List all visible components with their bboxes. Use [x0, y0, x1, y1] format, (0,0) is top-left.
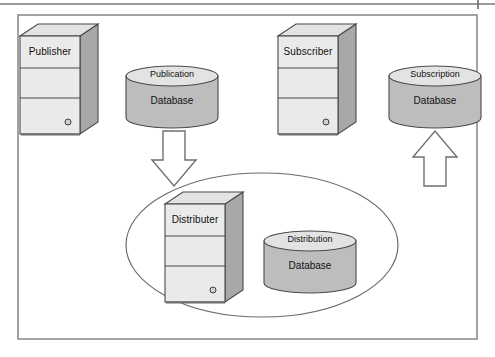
database-body-label-distribution: Database — [264, 260, 356, 271]
database-body-label-publication: Database — [126, 95, 218, 106]
server-label-distributer: Distributer — [165, 214, 225, 225]
database-top-label-subscription: Subscription — [389, 69, 481, 79]
server-subscriber — [278, 24, 356, 135]
server-label-subscriber: Subscriber — [278, 46, 338, 57]
page-top-rule — [0, 0, 495, 9]
database-top-label-publication: Publication — [126, 69, 218, 79]
server-distributer — [165, 192, 243, 303]
database-top-label-distribution: Distribution — [264, 234, 356, 244]
server-label-publisher: Publisher — [20, 46, 80, 57]
database-body-label-subscription: Database — [389, 95, 481, 106]
diagram-canvas: Publisher Subscriber Distributer Publica… — [0, 0, 495, 357]
server-publisher — [20, 24, 98, 135]
